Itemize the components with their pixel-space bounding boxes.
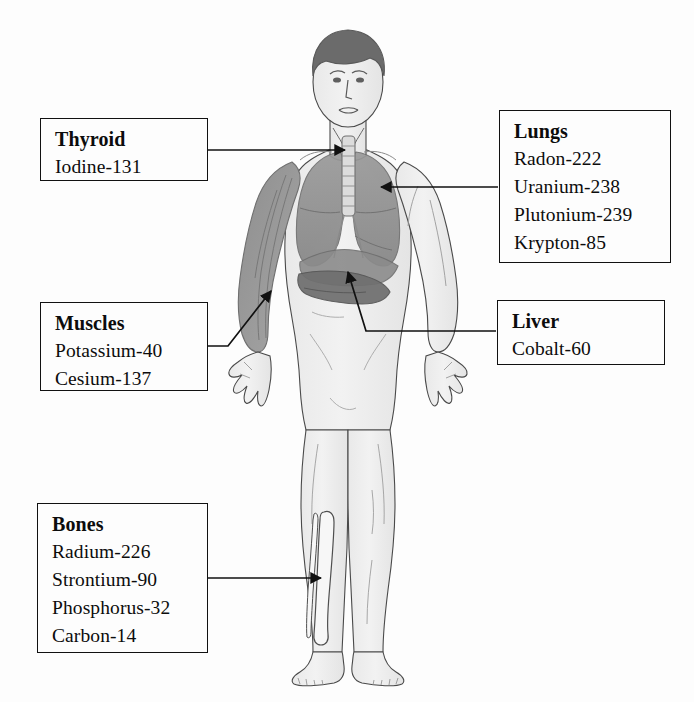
isotope-item: Radon-222 xyxy=(514,145,670,173)
callout-organ-label: Liver xyxy=(512,307,664,335)
isotope-item: Krypton-85 xyxy=(514,229,670,257)
callout-thyroid[interactable]: Thyroid Iodine-131 xyxy=(40,118,208,181)
callout-organ-label: Bones xyxy=(52,510,207,538)
isotope-item: Carbon-14 xyxy=(52,622,207,650)
isotope-item: Iodine-131 xyxy=(55,153,207,181)
callout-organ-label: Thyroid xyxy=(55,125,207,153)
isotope-item: Uranium-238 xyxy=(514,173,670,201)
leader-line-muscles xyxy=(208,291,271,346)
isotope-item: Radium-226 xyxy=(52,538,207,566)
callout-organ-label: Lungs xyxy=(514,117,670,145)
callout-lungs[interactable]: Lungs Radon-222 Uranium-238 Plutonium-23… xyxy=(499,110,671,263)
isotope-item: Phosphorus-32 xyxy=(52,594,207,622)
callout-muscles[interactable]: Muscles Potassium-40 Cesium-137 xyxy=(40,302,208,391)
leader-line-liver xyxy=(348,272,496,331)
isotope-item: Cobalt-60 xyxy=(512,335,664,363)
isotope-item: Plutonium-239 xyxy=(514,201,670,229)
callout-organ-label: Muscles xyxy=(55,309,207,337)
isotope-item: Potassium-40 xyxy=(55,337,207,365)
callout-bones[interactable]: Bones Radium-226 Strontium-90 Phosphorus… xyxy=(37,503,208,653)
callout-liver[interactable]: Liver Cobalt-60 xyxy=(497,300,665,365)
diagram-canvas: Thyroid Iodine-131 Lungs Radon-222 Urani… xyxy=(0,0,694,702)
isotope-item: Strontium-90 xyxy=(52,566,207,594)
isotope-item: Cesium-137 xyxy=(55,365,207,393)
